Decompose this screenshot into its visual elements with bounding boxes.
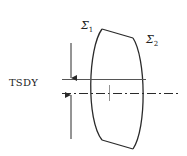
surface-1-curve	[91, 29, 102, 140]
surface-1-subscript: 1	[89, 26, 93, 34]
surface-2-symbol: Σ	[146, 33, 154, 46]
surface-1-symbol: Σ	[81, 19, 89, 32]
tsdy-label: TSDY	[9, 77, 38, 88]
surface-2-label: Σ2	[146, 33, 158, 48]
surface-2-subscript: 2	[154, 40, 158, 48]
lens-bottom-edge	[102, 140, 133, 149]
surface-1-label: Σ1	[81, 19, 93, 34]
lens-element	[91, 29, 143, 149]
lens-top-edge	[102, 29, 133, 38]
